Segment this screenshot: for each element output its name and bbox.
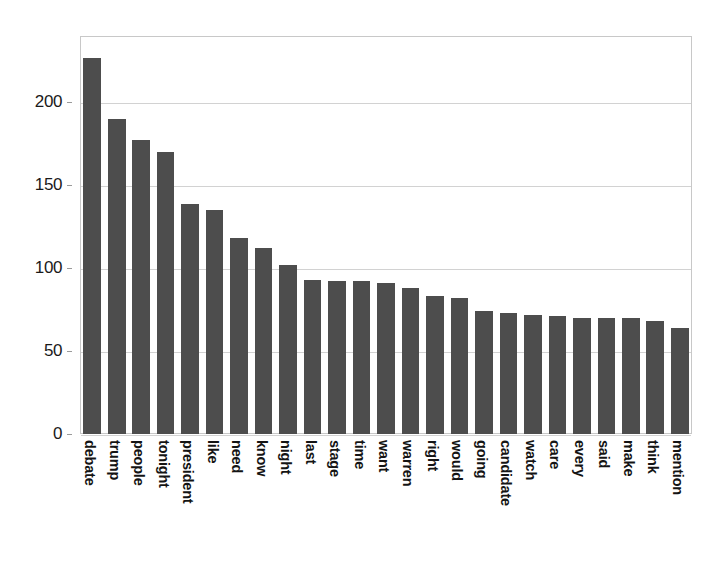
y-tick-mark-0 (67, 434, 72, 435)
bar-time[interactable] (353, 281, 371, 434)
bar-debate[interactable] (83, 58, 101, 434)
bar-right[interactable] (426, 296, 444, 434)
y-tick-label-0: 0 (53, 424, 62, 444)
bar-mention[interactable] (671, 328, 689, 434)
x-tick-label-need: need (229, 440, 245, 473)
x-tick-label-want: want (376, 440, 392, 472)
bar-stage[interactable] (328, 281, 346, 434)
x-tick-label-debate: debate (82, 440, 98, 486)
bar-candidate[interactable] (500, 313, 518, 434)
y-axis: 050100150200 (0, 36, 72, 434)
bar-care[interactable] (549, 316, 567, 434)
x-tick-label-president: president (180, 440, 196, 503)
x-tick-label-going: going (474, 440, 490, 478)
x-tick-label-time: time (352, 440, 368, 469)
x-tick-label-stage: stage (327, 440, 343, 477)
x-tick-label-tonight: tonight (156, 440, 172, 488)
x-tick-label-like: like (205, 440, 221, 463)
y-tick-label-100: 100 (35, 258, 62, 278)
x-tick-label-mention: mention (670, 440, 686, 495)
x-tick-label-watch: watch (523, 440, 539, 480)
x-tick-label-make: make (621, 440, 637, 476)
x-tick-label-last: last (303, 440, 319, 464)
x-tick-label-know: know (254, 440, 270, 476)
bar-every[interactable] (573, 318, 591, 434)
y-tick-mark-200 (67, 102, 72, 103)
x-tick-label-said: said (596, 440, 612, 468)
x-tick-label-people: people (131, 440, 147, 486)
bar-last[interactable] (304, 280, 322, 434)
x-tick-label-would: would (449, 440, 465, 481)
x-tick-label-every: every (572, 440, 588, 477)
y-tick-mark-150 (67, 185, 72, 186)
bar-president[interactable] (181, 204, 199, 435)
x-tick-label-night: night (278, 440, 294, 474)
x-tick-label-warren: warren (400, 440, 416, 486)
bar-want[interactable] (377, 283, 395, 434)
x-axis: debatetrumppeopletonightpresidentlikenee… (80, 436, 692, 564)
bars-container (80, 36, 692, 434)
x-tick-label-trump: trump (107, 440, 123, 480)
bar-going[interactable] (475, 311, 493, 434)
y-tick-label-150: 150 (35, 175, 62, 195)
y-tick-label-200: 200 (35, 92, 62, 112)
bar-would[interactable] (451, 298, 469, 434)
bar-need[interactable] (230, 238, 248, 434)
y-tick-label-50: 50 (44, 341, 62, 361)
bar-know[interactable] (255, 248, 273, 434)
bar-people[interactable] (132, 140, 150, 434)
x-tick-label-right: right (425, 440, 441, 471)
bar-warren[interactable] (402, 288, 420, 434)
x-tick-label-think: think (645, 440, 661, 474)
bar-trump[interactable] (108, 119, 126, 434)
y-tick-mark-50 (67, 351, 72, 352)
bar-think[interactable] (646, 321, 664, 434)
bar-like[interactable] (206, 210, 224, 434)
bar-night[interactable] (279, 265, 297, 434)
x-tick-label-care: care (547, 440, 563, 469)
bar-make[interactable] (622, 318, 640, 434)
x-tick-label-candidate: candidate (498, 440, 514, 506)
bar-tonight[interactable] (157, 152, 175, 434)
y-tick-mark-100 (67, 268, 72, 269)
bar-watch[interactable] (524, 315, 542, 434)
bar-said[interactable] (598, 318, 616, 434)
bar-chart-figure: 050100150200 debatetrumppeopletonightpre… (0, 0, 725, 564)
